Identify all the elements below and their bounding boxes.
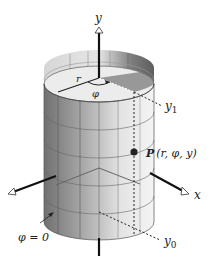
y1-label: y1 (164, 99, 178, 115)
y-axis-label: y (94, 11, 102, 25)
cylindrical-coordinates-diagram: y r φ y1 P(r, φ, y) x y0 φ = 0 (0, 0, 210, 261)
y-axis-arrow-icon (95, 27, 103, 33)
phi-label: φ (92, 88, 99, 99)
point-p (130, 148, 137, 155)
phi-zero-label: φ = 0 (18, 231, 49, 244)
point-label: P(r, φ, y) (145, 147, 197, 160)
y0-label: y0 (163, 234, 177, 250)
x-axis-arrow-icon (181, 187, 189, 195)
x-axis-neg-arrow-icon (8, 188, 16, 195)
x-axis-label: x (194, 188, 201, 202)
